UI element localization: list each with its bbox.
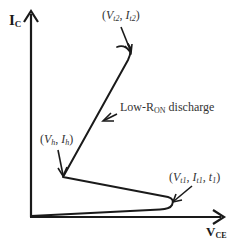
y-axis-label: IC (9, 13, 21, 29)
iv-curve (31, 44, 173, 216)
annotation-suffix: discharge (166, 100, 215, 114)
y-axis-label-sub: C (15, 19, 22, 29)
discharge-annotation: Low-RON discharge (120, 101, 214, 115)
trigger1-point-label: (Vt1, It1, t1) (169, 171, 220, 185)
holding-point-label: (Vh, Ih) (40, 133, 73, 147)
t1-pointer-arrow (173, 186, 192, 202)
x-axis-label: VCE (206, 225, 227, 240)
y-axis (24, 11, 38, 217)
discharge-pointer-arrow (103, 113, 117, 121)
annotation-subscript: ON (154, 106, 166, 115)
paren-close: ) (69, 132, 73, 146)
paren-close: ) (136, 8, 140, 22)
annotation-prefix: Low-R (120, 100, 154, 114)
paren-close: ) (216, 170, 220, 184)
x-axis-label-main: V (206, 224, 215, 239)
t2-pointer-arrow (121, 27, 132, 53)
iv-curve-diagram (0, 0, 237, 247)
trigger2-point-label: (Vt2, It2) (102, 9, 140, 23)
x-axis-label-sub: CE (215, 231, 226, 240)
